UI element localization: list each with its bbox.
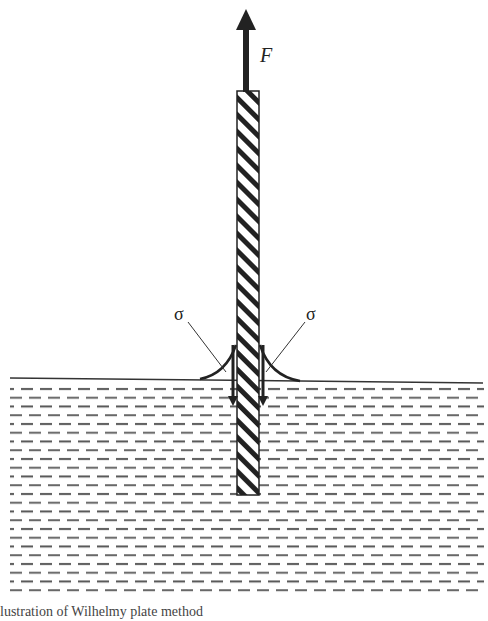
force-arrow-head	[236, 9, 256, 30]
meniscus-right	[260, 345, 300, 381]
sigma-left-leader	[188, 322, 226, 372]
wilhelmy-plate	[237, 91, 259, 495]
force-arrow-shaft	[243, 26, 249, 92]
wilhelmy-plate-diagram: F σ σ	[0, 0, 488, 621]
sigma-right-leader	[266, 322, 305, 372]
tension-left-label: σ	[174, 304, 184, 324]
tension-right-label: σ	[306, 304, 316, 324]
figure-caption: lustration of Wilhelmy plate method	[0, 604, 203, 620]
force-label: F	[259, 44, 273, 66]
